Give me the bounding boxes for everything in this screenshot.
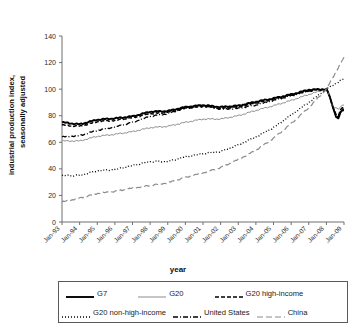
legend-swatch-dashed (214, 288, 244, 298)
x-tick-label: Jan-00 (165, 224, 184, 243)
legend-label: G20 non-high-income (93, 308, 166, 317)
legend-item-g7[interactable]: G7 (65, 288, 107, 298)
y-tick-label: 80 (48, 112, 56, 119)
legend-item-united-states[interactable]: United States (172, 308, 250, 318)
legend-row-2: G20 non-high-incomeUnited StatesChina (59, 303, 347, 322)
legend-swatch-solid-thin-gray (137, 288, 167, 298)
x-axis-ticks: Jan-93Jan-94Jan-95Jan-96Jan-97Jan-98Jan-… (42, 222, 344, 244)
x-tick-label: Jan-01 (183, 224, 202, 243)
chart-legend: G7G20G20 high-income G20 non-high-income… (58, 281, 348, 323)
legend-swatch-long-dash-gray (256, 308, 286, 318)
x-tick-label: Jan-02 (200, 224, 219, 243)
series-line-g20-high-income (62, 89, 344, 127)
y-axis-title-line1: industrial production index, (7, 75, 16, 175)
legend-item-g20[interactable]: G20 (137, 288, 183, 298)
x-axis-title: year (170, 265, 186, 274)
x-tick-label: Jan-06 (271, 224, 290, 243)
y-axis-ticks: 020406080100120140 (44, 33, 62, 226)
y-tick-label: 120 (44, 59, 56, 66)
series-line-g20 (62, 89, 344, 142)
legend-row-1: G7G20G20 high-income (59, 282, 347, 303)
x-tick-label: Jan-04 (236, 224, 255, 243)
y-axis-title: industrial production index, seasonally … (7, 75, 27, 175)
legend-label: G7 (97, 289, 107, 298)
legend-swatch-dotted (61, 308, 91, 318)
legend-swatch-solid-thick (65, 288, 95, 298)
chart-axes (62, 36, 344, 222)
series-line-china (62, 57, 344, 202)
x-tick-label: Jan-07 (288, 224, 307, 243)
y-tick-label: 100 (44, 86, 56, 93)
x-tick-label: Jan-09 (324, 224, 343, 243)
y-tick-label: 140 (44, 33, 56, 40)
x-tick-label: Jan-99 (147, 224, 166, 243)
legend-item-china[interactable]: China (256, 308, 308, 318)
legend-label: United States (204, 308, 250, 317)
chart-series (62, 57, 344, 202)
legend-label: G20 high-income (246, 289, 304, 298)
x-tick-label: Jan-95 (77, 224, 96, 243)
x-tick-label: Jan-97 (112, 224, 131, 243)
legend-label: China (288, 308, 308, 317)
x-tick-label: Jan-93 (42, 224, 61, 243)
industrial-production-line-chart: industrial production index, seasonally … (0, 0, 355, 329)
x-tick-label: Jan-08 (306, 224, 325, 243)
series-line-united-states (62, 89, 344, 137)
x-tick-label: Jan-96 (95, 224, 114, 243)
legend-item-g20-high-income[interactable]: G20 high-income (214, 288, 304, 298)
y-tick-label: 60 (48, 139, 56, 146)
y-tick-label: 40 (48, 165, 56, 172)
x-tick-label: Jan-94 (59, 224, 78, 243)
y-tick-label: 20 (48, 192, 56, 199)
legend-swatch-dash-dot (172, 308, 202, 318)
x-tick-label: Jan-03 (218, 224, 237, 243)
legend-item-g20-non-high-income[interactable]: G20 non-high-income (61, 308, 166, 318)
y-axis-title-line2: seasonally adjusted (18, 75, 27, 148)
legend-label: G20 (169, 289, 183, 298)
x-tick-label: Jan-98 (130, 224, 149, 243)
x-tick-label: Jan-05 (253, 224, 272, 243)
chart-figure: industrial production index, seasonally … (0, 0, 355, 329)
